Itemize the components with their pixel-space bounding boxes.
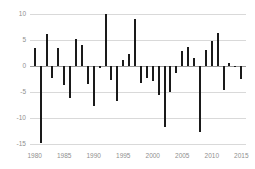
y-axis-tick-label: -5 bbox=[6, 89, 26, 96]
bar bbox=[105, 14, 107, 66]
bar bbox=[211, 41, 213, 66]
bar bbox=[193, 58, 195, 66]
x-axis-tick-label: 2005 bbox=[167, 153, 197, 160]
bar bbox=[110, 66, 112, 80]
bar bbox=[46, 34, 48, 66]
bar bbox=[93, 66, 95, 106]
bar bbox=[140, 66, 142, 83]
gridline bbox=[30, 40, 246, 41]
y-axis-tick-label: 0 bbox=[6, 63, 26, 70]
bar bbox=[87, 66, 89, 84]
bar bbox=[169, 66, 171, 92]
bar-chart: 1050-5-10-15 198019851990199520002005201… bbox=[0, 0, 255, 169]
x-axis-tick-label: 1980 bbox=[20, 153, 50, 160]
bar bbox=[69, 66, 71, 98]
gridline bbox=[30, 144, 246, 145]
bar bbox=[228, 63, 230, 66]
x-axis-tick-label: 1985 bbox=[49, 153, 79, 160]
bar bbox=[234, 66, 236, 67]
bar bbox=[152, 66, 154, 81]
bar bbox=[217, 33, 219, 66]
bar bbox=[175, 66, 177, 73]
bar bbox=[51, 66, 53, 78]
y-axis-tick-label: 5 bbox=[6, 37, 26, 44]
bar bbox=[199, 66, 201, 132]
bar bbox=[63, 66, 65, 85]
y-axis-tick-label: -10 bbox=[6, 115, 26, 122]
plot-area bbox=[30, 12, 246, 147]
y-axis-tick-label: -15 bbox=[6, 141, 26, 148]
bar bbox=[34, 48, 36, 66]
x-axis-tick-label: 2000 bbox=[138, 153, 168, 160]
gridline bbox=[30, 14, 246, 15]
bar bbox=[75, 39, 77, 66]
gridline bbox=[30, 118, 246, 119]
bar bbox=[81, 45, 83, 66]
bar bbox=[223, 66, 225, 90]
bar bbox=[181, 51, 183, 66]
bar bbox=[40, 66, 42, 143]
bar bbox=[128, 54, 130, 66]
gridline bbox=[30, 92, 246, 93]
y-axis-tick-label: 10 bbox=[6, 11, 26, 18]
bar bbox=[158, 66, 160, 95]
x-axis-tick-label: 1990 bbox=[79, 153, 109, 160]
bar bbox=[116, 66, 118, 101]
x-axis-tick-label: 1995 bbox=[108, 153, 138, 160]
bar bbox=[146, 66, 148, 78]
bar bbox=[240, 66, 242, 79]
bar bbox=[99, 66, 101, 68]
bar bbox=[57, 48, 59, 66]
x-axis-tick-label: 2015 bbox=[226, 153, 255, 160]
bar bbox=[187, 47, 189, 66]
bar bbox=[205, 50, 207, 66]
bar bbox=[134, 19, 136, 66]
bar bbox=[164, 66, 166, 127]
x-axis-tick-label: 2010 bbox=[197, 153, 227, 160]
bar bbox=[122, 60, 124, 66]
